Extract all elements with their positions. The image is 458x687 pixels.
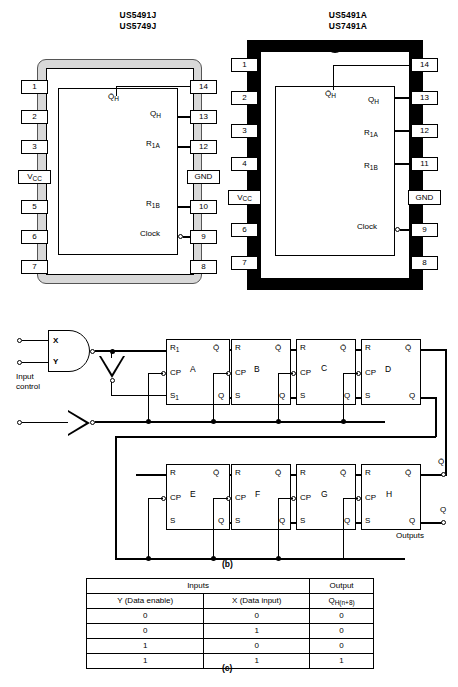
package-j-title-line1: US5491J (78, 10, 198, 21)
wire-a-qhbar-up (333, 66, 334, 90)
wire-clk-tap-H-h (343, 498, 358, 499)
output-qbar-terminal[interactable] (441, 472, 446, 477)
wire-clk-tap-H (343, 498, 344, 560)
package-a-title-line1: US5491A (288, 10, 408, 21)
wire-clk-tap-G-h (278, 498, 293, 499)
wire-clk-tap-F-h (213, 498, 228, 499)
ff-C-qbar: Q̄ (340, 344, 346, 352)
wire-clk-tap-A-h (148, 373, 163, 374)
clock-bubble-j-icon (178, 234, 183, 239)
ff-A-s: S1 (170, 392, 179, 400)
ff-B-cp: CP (235, 369, 246, 377)
ff-F-r: R (235, 469, 241, 477)
node-clk-E (146, 556, 151, 561)
ff-B-s: S (235, 392, 240, 400)
pin-j-right-14: 14 (190, 80, 217, 94)
wire-out-q (420, 522, 442, 524)
wire-j-r1a (178, 146, 191, 148)
node-clk-G (276, 556, 281, 561)
ff-C-r: R (300, 344, 306, 352)
cell-y: 1 (87, 654, 204, 669)
nand-left-edge (48, 330, 49, 372)
pin-a-left-6: 6 (231, 223, 258, 237)
wire-a-clock (400, 229, 412, 231)
pin-j-right-9: 9 (190, 230, 217, 244)
caption-logic: (b) (222, 559, 233, 569)
wire-j-qhbar-over (116, 86, 190, 87)
pin-j-left-6: 6 (21, 230, 48, 244)
wire-clk-tap-D (343, 373, 344, 422)
ff-D-r: R (365, 344, 371, 352)
table-row: 1 0 0 (87, 639, 374, 654)
wire-inv-out-right (111, 395, 168, 396)
cell-qh: 0 (310, 639, 374, 654)
wire-nand-out (95, 350, 168, 352)
package-j-title-line2: US5749J (78, 21, 198, 32)
label-a-qh-bar: Q̄H (325, 90, 336, 98)
ff-G-cp: CP (300, 494, 311, 502)
pin-a-right-14: 14 (411, 58, 438, 72)
label-j-r1b: R1B (146, 200, 160, 208)
ff-A-q: Q (218, 392, 224, 400)
label-a-qh: QH (368, 96, 379, 104)
pin-j-left-vcc: VCC (18, 170, 51, 184)
node-clk-D (341, 419, 346, 424)
label-a-clock: Clock (357, 223, 377, 231)
wire-D-qbar-down (445, 349, 447, 476)
ff-E-s: S (170, 517, 175, 525)
truth-table-header-row: Y (Data enable) X (Data input) QH(n+8) (87, 594, 374, 609)
output-qbar-label: Q̄ (438, 458, 444, 466)
pin-a-right-9: 9 (411, 223, 438, 237)
ff-E-qbar: Q̄ (213, 469, 219, 477)
cell-x: 1 (204, 624, 310, 639)
node-clk-C (276, 419, 281, 424)
pin-a-right-13: 13 (411, 91, 438, 105)
wire-C-q-D-s (355, 397, 362, 399)
wire-a-qh (395, 97, 412, 99)
wire-inv-out-down (111, 382, 112, 396)
package-a-title: US5491A US7491A (288, 10, 408, 32)
wire-a-r1a (395, 130, 412, 132)
pin-a-left-3: 3 (231, 124, 258, 138)
pin-a-left-4: 4 (231, 157, 258, 171)
pin-a-right-gnd: GND (408, 190, 441, 205)
wire-D-qbar-out (420, 349, 447, 351)
ff-C-s: S (300, 392, 305, 400)
wire-clock-in (22, 422, 68, 423)
ff-G-qbar: Q̄ (340, 469, 346, 477)
wire-C-qbar-D-r (355, 349, 362, 351)
inverter-control-inner (101, 356, 123, 374)
node-clk-A (146, 419, 151, 424)
package-a-title-line2: US7491A (288, 21, 408, 32)
pin-a-left-vcc: VCC (228, 190, 261, 205)
ff-B-q: Q (279, 392, 285, 400)
output-q-terminal[interactable] (441, 520, 446, 525)
ff-F-cp: CP (235, 494, 246, 502)
truth-table: Inputs Output Y (Data enable) X (Data in… (86, 578, 374, 669)
wire-B-q-C-s (290, 397, 297, 399)
wire-D-q-to-E-s (115, 558, 405, 560)
wire-clk-tap-G (278, 498, 279, 560)
ff-A-id: A (190, 365, 196, 374)
ff-H-cp: CP (365, 494, 376, 502)
label-j-qh: QH (150, 110, 161, 118)
wire-A-qbar-B-r (230, 349, 232, 351)
pin-a-right-11: 11 (411, 157, 438, 171)
wire-E-qbar-F-r (229, 474, 232, 476)
ff-B-r: R (235, 344, 241, 352)
label-a-r1b: R1B (364, 162, 378, 170)
wire-clk-tap-C (278, 373, 279, 422)
wire-clk-tap-E-h (148, 498, 163, 499)
output-q-label: Q (440, 506, 446, 514)
wire-a-qhbar-over (333, 65, 411, 66)
wire-B-qbar-C-r (290, 349, 297, 351)
node-clk-F (211, 556, 216, 561)
ff-G-s: S (300, 517, 305, 525)
ff-D-q: Q (409, 392, 415, 400)
ff-H-r: R (365, 469, 371, 477)
truth-table-col-y: Y (Data enable) (87, 594, 204, 609)
table-row: 0 0 0 (87, 609, 374, 624)
wire-A-q-B-s (229, 397, 232, 399)
ff-B-qbar: Q̄ (275, 344, 281, 352)
inverter-clock-inner (68, 412, 86, 434)
